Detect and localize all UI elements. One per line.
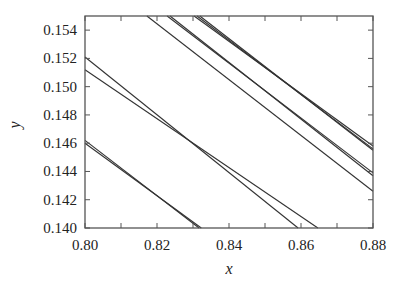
y-tick-label: 0.148 — [43, 107, 77, 123]
x-tick-label: 0.82 — [144, 237, 170, 253]
y-axis-ticks: 0.1400.1420.1440.1460.1480.1500.1520.154 — [43, 22, 373, 236]
plot-frame — [85, 16, 373, 228]
y-tick-label: 0.152 — [43, 50, 77, 66]
y-tick-label: 0.154 — [43, 22, 77, 38]
x-tick-label: 0.88 — [360, 237, 386, 253]
series-line-c2 — [170, 16, 373, 176]
x-axis-label: x — [224, 260, 232, 277]
y-tick-label: 0.146 — [43, 135, 77, 151]
series-line-c0 — [147, 16, 373, 191]
x-tick-label: 0.84 — [216, 237, 243, 253]
y-axis-label: y — [6, 121, 24, 131]
series-line-b2 — [85, 70, 318, 228]
x-tick-label: 0.86 — [288, 237, 315, 253]
chart: 0.800.820.840.860.88 0.1400.1420.1440.14… — [0, 0, 395, 286]
series-line-a2 — [85, 143, 201, 228]
y-tick-label: 0.140 — [43, 220, 77, 236]
series-line-d3 — [200, 16, 373, 150]
y-tick-label: 0.150 — [43, 79, 77, 95]
x-tick-label: 0.80 — [72, 237, 98, 253]
y-tick-label: 0.142 — [43, 192, 77, 208]
x-axis-ticks: 0.800.820.840.860.88 — [72, 16, 386, 253]
y-tick-label: 0.144 — [43, 163, 77, 179]
plot-lines — [85, 16, 373, 228]
